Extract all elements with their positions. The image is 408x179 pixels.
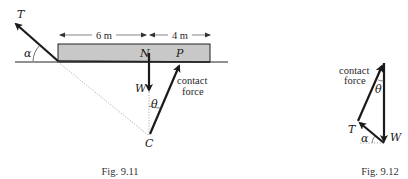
figure-9-12: contact force θ T α W Fig. 9.12 — [339, 63, 403, 177]
contact-force-label-line2: force — [182, 86, 204, 97]
force-triangle-theta-label: θ — [375, 83, 382, 96]
tension-label: T — [17, 8, 26, 21]
dimension-6m: 6 m — [60, 30, 146, 41]
point-p-label: P — [175, 47, 184, 60]
theta-label: θ — [151, 98, 158, 111]
diagram-canvas: 6 m 4 m T α N W P contact force θ C — [0, 0, 408, 179]
dimension-4m: 4 m — [150, 30, 210, 41]
point-c-label: C — [145, 137, 154, 150]
force-triangle-weight-label: W — [390, 131, 403, 144]
force-triangle-tension-label: T — [348, 123, 357, 136]
tension-arrow — [16, 24, 58, 61]
figure-caption: Fig. 9.12 — [361, 166, 399, 177]
figure-9-11: 6 m 4 m T α N W P contact force θ C — [15, 8, 228, 177]
force-triangle-alpha-label: α — [361, 132, 369, 145]
weight-label: W — [135, 82, 148, 95]
figure-caption: Fig. 9.11 — [101, 166, 138, 177]
force-triangle-contact-label-line2: force — [344, 75, 366, 86]
force-triangle-alpha-arc — [372, 136, 375, 143]
beam-base — [58, 61, 210, 62]
dimension-6m-label: 6 m — [96, 30, 112, 41]
dimension-4m-label: 4 m — [172, 30, 188, 41]
beam — [58, 44, 210, 62]
alpha-label: α — [24, 47, 32, 60]
alpha-arc — [33, 45, 40, 61]
dotted-line-anchor-to-c — [58, 62, 148, 135]
contact-force-label-line1: contact — [177, 75, 207, 86]
